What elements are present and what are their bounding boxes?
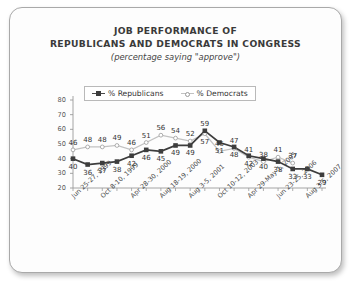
democrats-value-label: 41 bbox=[241, 146, 257, 154]
republicans-value-label: 48 bbox=[226, 151, 242, 159]
legend-label-democrats: % Democrats bbox=[197, 89, 248, 98]
y-axis-tick-label: 40 bbox=[52, 155, 66, 163]
y-axis-tick-label: 70 bbox=[52, 111, 66, 119]
y-axis-tick-label: 80 bbox=[52, 96, 66, 104]
democrats-value-label: 56 bbox=[153, 124, 169, 132]
democrats-line-swatch-icon bbox=[181, 93, 194, 94]
democrats-value-label: 52 bbox=[182, 130, 198, 138]
republicans-value-label: 40 bbox=[65, 163, 81, 171]
democrats-value-label: 57 bbox=[197, 138, 213, 146]
republicans-value-label: 40 bbox=[255, 163, 271, 171]
democrats-value-label: 41 bbox=[270, 146, 286, 154]
republicans-value-label: 49 bbox=[182, 149, 198, 157]
democrats-value-label: 48 bbox=[94, 136, 110, 144]
republicans-line-swatch-icon bbox=[92, 93, 105, 94]
republicans-value-label: 59 bbox=[197, 120, 213, 128]
republicans-value-label: 42 bbox=[124, 160, 140, 168]
republicans-value-label: 42 bbox=[241, 160, 257, 168]
democrats-value-label: 37 bbox=[285, 152, 301, 160]
republicans-value-label: 51 bbox=[211, 147, 227, 155]
republicans-value-label: 33 bbox=[285, 173, 301, 181]
democrats-value-label: 48 bbox=[80, 136, 96, 144]
title-line-2: REPUBLICANS AND DEMOCRATS IN CONGRESS bbox=[10, 38, 341, 51]
democrats-value-label: 54 bbox=[168, 127, 184, 135]
y-axis-tick-label: 50 bbox=[52, 140, 66, 148]
democrats-value-label: 38 bbox=[255, 151, 271, 159]
democrats-value-label: 46 bbox=[65, 139, 81, 147]
republicans-value-label: 38 bbox=[270, 166, 286, 174]
title-line-1: JOB PERFORMANCE OF bbox=[10, 25, 341, 38]
republicans-value-label: 46 bbox=[138, 154, 154, 162]
legend-item-democrats: % Democrats bbox=[181, 89, 248, 98]
republicans-value-label: 45 bbox=[153, 155, 169, 163]
chart-legend: % Republicans % Democrats bbox=[84, 86, 256, 101]
democrats-value-label: 49 bbox=[109, 134, 125, 142]
legend-label-republicans: % Republicans bbox=[108, 89, 164, 98]
republicans-value-label: 33 bbox=[299, 173, 315, 181]
democrats-value-label: 47 bbox=[226, 137, 242, 145]
y-axis-tick-label: 30 bbox=[52, 169, 66, 177]
republicans-value-label: 29 bbox=[314, 179, 330, 187]
democrats-value-label: 51 bbox=[138, 132, 154, 140]
y-axis-tick-label: 20 bbox=[52, 184, 66, 192]
y-axis-tick-label: 60 bbox=[52, 125, 66, 133]
democrats-value-label: 46 bbox=[124, 139, 140, 147]
republicans-value-label: 36 bbox=[80, 169, 96, 177]
republicans-value-label: 38 bbox=[109, 166, 125, 174]
chart-subtitle: (percentage saying "approve") bbox=[10, 50, 341, 64]
chart-title: JOB PERFORMANCE OF REPUBLICANS AND DEMOC… bbox=[10, 25, 341, 64]
republicans-value-label: 37 bbox=[94, 167, 110, 175]
legend-item-republicans: % Republicans bbox=[92, 89, 164, 98]
republicans-value-label: 49 bbox=[168, 149, 184, 157]
